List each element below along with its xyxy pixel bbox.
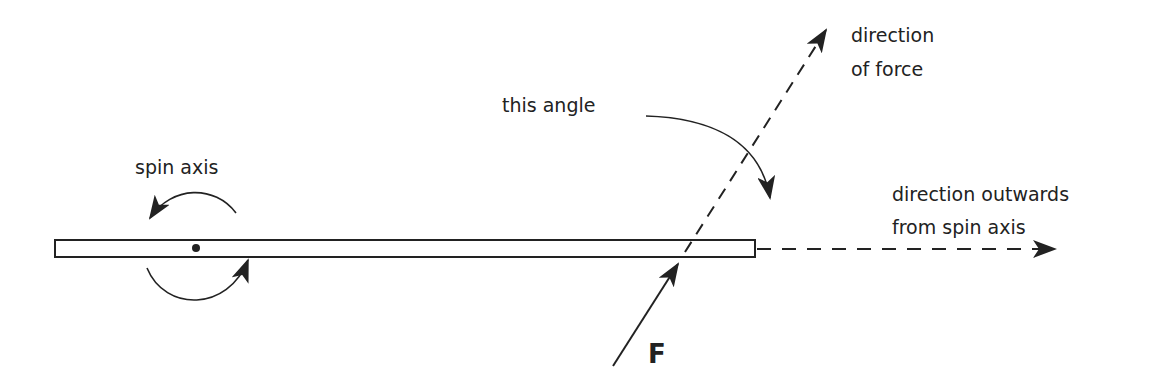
diagram: spin axis this angle direction of force … xyxy=(0,0,1157,387)
angle-arrow xyxy=(646,116,770,198)
direction-outwards-label-2: from spin axis xyxy=(892,214,1026,240)
rod xyxy=(55,240,755,257)
this-angle-label: this angle xyxy=(502,92,595,118)
spin-axis-label: spin axis xyxy=(135,154,218,180)
direction-of-force-label-1: direction xyxy=(851,22,934,48)
spin-arrow-bottom xyxy=(147,260,248,300)
spin-axis-dot xyxy=(192,244,200,252)
direction-of-force-label-2: of force xyxy=(851,56,923,82)
spin-arrow-top xyxy=(150,193,236,218)
force-label: F xyxy=(648,341,666,367)
direction-of-force-line xyxy=(685,30,826,252)
force-arrow xyxy=(613,264,678,366)
direction-outwards-label-1: direction outwards xyxy=(892,181,1069,207)
